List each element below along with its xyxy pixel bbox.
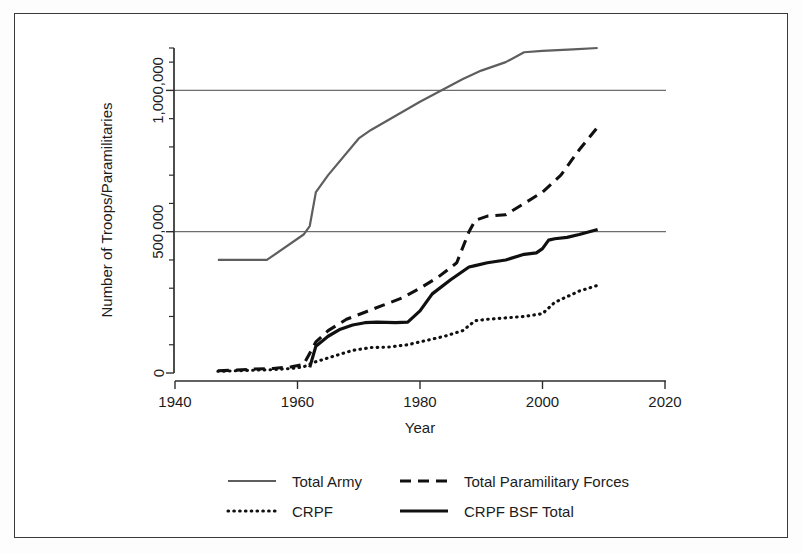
x-axis-ticks (175, 381, 665, 389)
x-tick-label: 1940 (158, 393, 191, 410)
x-axis-title: Year (405, 419, 435, 436)
legend: Total Army Total Paramilitary Forces CRP… (228, 473, 629, 520)
x-tick-label: 2020 (648, 393, 681, 410)
x-tick-label: 2000 (526, 393, 559, 410)
line-chart: 0500,0001,000,000 19401960198020002020 Y… (0, 0, 803, 553)
series-total-army (218, 48, 598, 260)
figure-canvas: 0500,0001,000,000 19401960198020002020 Y… (0, 0, 803, 553)
legend-label-total-army: Total Army (292, 473, 363, 490)
series-crpf-bsf-total (310, 229, 598, 367)
y-axis-title: Number of Troops/Paramilitaries (98, 102, 115, 317)
y-tick-label: 0 (150, 369, 167, 377)
legend-label-crpf-bsf-total: CRPF BSF Total (464, 503, 574, 520)
x-axis-tick-labels: 19401960198020002020 (158, 393, 681, 410)
y-tick-label: 1,000,000 (150, 57, 167, 124)
y-axis-ticks (166, 48, 174, 373)
y-tick-label: 500,000 (150, 205, 167, 259)
y-axis-tick-labels: 0500,0001,000,000 (150, 57, 167, 377)
legend-label-crpf: CRPF (292, 503, 333, 520)
legend-label-total-paramilitary-forces: Total Paramilitary Forces (464, 473, 629, 490)
x-tick-label: 1960 (281, 393, 314, 410)
gridlines (174, 90, 666, 231)
series-crpf (218, 285, 598, 371)
x-tick-label: 1980 (403, 393, 436, 410)
